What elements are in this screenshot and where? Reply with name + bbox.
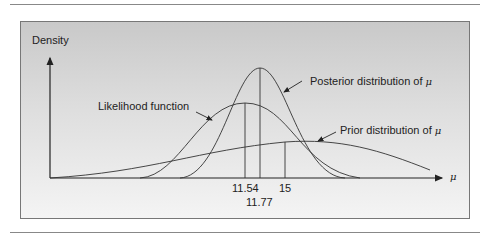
- y-axis-label: Density: [32, 34, 69, 46]
- prior-label: Prior distribution of μ: [340, 124, 441, 136]
- x-axis-label: μ: [450, 171, 457, 182]
- posterior-mu: μ: [426, 76, 433, 87]
- likelihood-curve: [140, 103, 360, 178]
- prior-mu: μ: [435, 125, 442, 136]
- posterior-label: Posterior distribution of μ: [310, 75, 432, 87]
- tick-11-54: 11.54: [232, 182, 259, 194]
- posterior-text: Posterior distribution of: [310, 75, 423, 87]
- bottom-rule: [10, 232, 480, 233]
- prior-text: Prior distribution of: [340, 124, 432, 136]
- posterior-arrow: [284, 81, 302, 92]
- prior-curve: [50, 141, 430, 178]
- tick-15: 15: [279, 182, 291, 194]
- tick-11-77: 11.77: [246, 196, 273, 208]
- likelihood-label: Likelihood function: [98, 100, 189, 112]
- prior-arrow: [318, 132, 336, 141]
- likelihood-arrow: [196, 112, 212, 120]
- chart-plot: [0, 0, 488, 235]
